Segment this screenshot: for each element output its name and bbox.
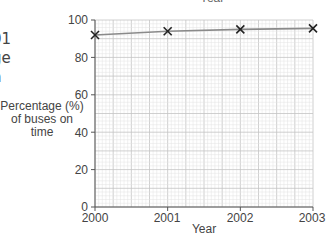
y-tick-80: 80 [58, 51, 88, 65]
y-tick-60: 60 [58, 88, 88, 102]
chart-plot-area [0, 0, 329, 235]
x-tick-2000: 2000 [75, 211, 115, 225]
x-axis-label: Year [174, 222, 234, 235]
x-tick-2003: 2003 [292, 211, 329, 225]
y-tick-40: 40 [58, 126, 88, 140]
y-tick-100: 100 [58, 13, 88, 27]
y-tick-20: 20 [58, 163, 88, 177]
